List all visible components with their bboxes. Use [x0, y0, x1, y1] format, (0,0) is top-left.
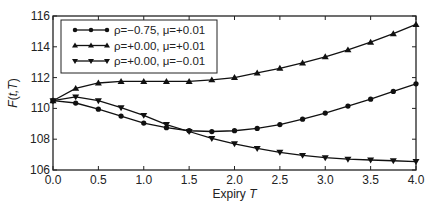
- x-tick-label: 1.0: [135, 173, 152, 187]
- data-point-circle-icon: [73, 100, 78, 105]
- x-tick-label: 4.0: [408, 173, 425, 187]
- data-point-circle-icon: [209, 129, 214, 134]
- y-tick-label: 116: [31, 9, 50, 23]
- data-point-circle-icon: [413, 81, 418, 86]
- legend-label: ρ=+0.00, μ=−0.01: [114, 55, 205, 67]
- legend-circle-icon: [105, 28, 110, 33]
- legend-circle-icon: [89, 28, 94, 33]
- x-tick-label: 1.5: [181, 173, 198, 187]
- data-point-circle-icon: [300, 117, 305, 122]
- y-tick-label: 112: [31, 71, 50, 85]
- x-tick-label: 3.0: [317, 173, 334, 187]
- x-axis-label: Expiry T: [212, 187, 258, 201]
- data-point-triangle-up-icon: [413, 21, 420, 27]
- data-point-circle-icon: [277, 122, 282, 127]
- data-point-circle-icon: [368, 97, 373, 102]
- data-point-circle-icon: [391, 89, 396, 94]
- data-point-circle-icon: [141, 120, 146, 125]
- x-tick-label: 3.5: [362, 173, 379, 187]
- series-line-0: [53, 84, 416, 132]
- x-tick-label: 2.5: [272, 173, 289, 187]
- legend-label: ρ=−0.75, μ=+0.01: [114, 24, 205, 36]
- chart-container: 0.00.51.01.52.02.53.03.54.01061081101121…: [0, 0, 436, 211]
- x-tick-label: 0.5: [90, 173, 107, 187]
- data-point-circle-icon: [345, 103, 350, 108]
- data-point-circle-icon: [323, 110, 328, 115]
- y-tick-label: 110: [31, 101, 50, 115]
- y-tick-label: 108: [30, 132, 50, 146]
- data-point-circle-icon: [96, 107, 101, 112]
- line-chart: 0.00.51.01.52.02.53.03.54.01061081101121…: [0, 0, 436, 211]
- y-axis-label: F(t,T): [6, 78, 20, 107]
- y-tick-label: 114: [31, 40, 50, 54]
- data-point-circle-icon: [255, 126, 260, 131]
- data-point-circle-icon: [232, 128, 237, 133]
- x-tick-label: 2.0: [226, 173, 243, 187]
- legend-circle-icon: [73, 28, 78, 33]
- legend-label: ρ=+0.00, μ=+0.01: [114, 40, 205, 52]
- y-tick-label: 106: [30, 163, 50, 177]
- data-point-circle-icon: [118, 113, 123, 118]
